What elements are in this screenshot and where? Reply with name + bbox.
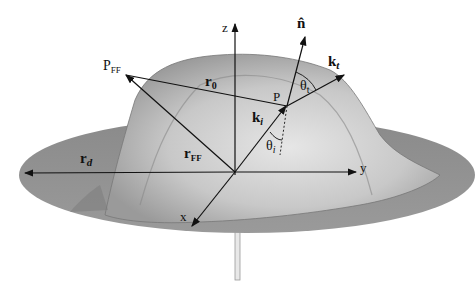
support-post xyxy=(235,228,240,280)
reflector-diagram: z y x n̂ kt θt P ki θi PFF r0 rFF rd xyxy=(0,0,475,297)
z-axis-label: z xyxy=(222,20,228,35)
x-axis-label: x xyxy=(180,209,187,224)
k-t-label: kt xyxy=(328,53,340,71)
point-p-label: P xyxy=(273,89,280,104)
y-axis-label: y xyxy=(360,160,367,175)
normal-label: n̂ xyxy=(297,15,306,31)
p-ff-label: PFF xyxy=(103,58,121,75)
